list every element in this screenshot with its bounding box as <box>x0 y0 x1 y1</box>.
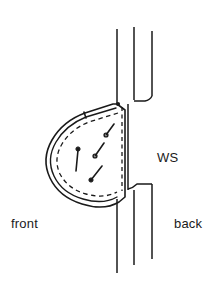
upper-panel-lines <box>117 27 152 103</box>
figure-root: WS front back <box>0 0 219 288</box>
sewing-diagram <box>0 0 219 288</box>
label-front: front <box>11 216 38 231</box>
lower-step-edge <box>128 184 152 189</box>
flap-outer-outline <box>46 104 125 207</box>
upper-step-edge <box>134 96 152 101</box>
tack-mark <box>116 102 120 106</box>
label-back: back <box>174 216 202 231</box>
label-ws: WS <box>157 150 178 165</box>
